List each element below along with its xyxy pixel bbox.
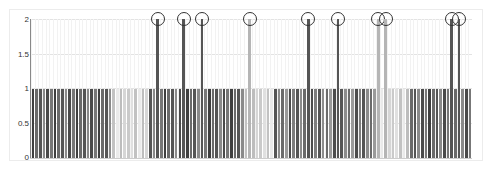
bar (212, 89, 215, 159)
bar (414, 89, 417, 159)
highlight-circle-marker (452, 12, 466, 26)
highlight-circle-marker (331, 12, 345, 26)
y-tick-label: 0 (25, 153, 29, 162)
bar (340, 89, 343, 159)
bar (439, 89, 442, 159)
highlight-circle-marker (243, 12, 257, 26)
y-tick-label: 1 (25, 84, 29, 93)
bar (57, 89, 60, 159)
bar (443, 89, 446, 159)
bar (134, 89, 137, 159)
y-tick-label: 0.5 (18, 119, 29, 128)
bar (428, 89, 431, 159)
bar (171, 89, 174, 159)
bar (359, 89, 362, 159)
bar (465, 89, 468, 159)
bar (186, 89, 189, 159)
bar (149, 89, 152, 159)
bar (318, 89, 321, 159)
bar (399, 89, 402, 159)
y-axis (30, 19, 31, 159)
bar (373, 89, 376, 159)
bar (215, 89, 218, 159)
bar (366, 89, 369, 159)
bar (245, 89, 248, 159)
bar (223, 89, 226, 159)
bar (252, 89, 255, 159)
bar (381, 89, 384, 159)
bar (454, 89, 457, 159)
bar (263, 89, 266, 159)
bar (436, 89, 439, 159)
bar (72, 89, 75, 159)
bar (256, 89, 259, 159)
bar (190, 89, 193, 159)
bar (94, 89, 97, 159)
bar (322, 89, 325, 159)
bar (278, 89, 281, 159)
bar (370, 89, 373, 159)
bar (197, 89, 200, 159)
bar (109, 89, 112, 159)
highlight-circle-marker (177, 12, 191, 26)
bar (348, 89, 351, 159)
bar (138, 89, 141, 159)
bar (193, 89, 196, 159)
bar (153, 89, 156, 159)
y-tick-label: 1.5 (18, 50, 29, 59)
bar (285, 89, 288, 159)
bar (76, 89, 79, 159)
bar (219, 89, 222, 159)
bar-highlighted (201, 19, 204, 158)
bar-highlighted (182, 19, 185, 158)
bar-highlighted (384, 19, 387, 158)
bar (289, 89, 292, 159)
bar (90, 89, 93, 159)
bar (296, 89, 299, 159)
highlight-circle-marker (195, 12, 209, 26)
highlight-circle-marker (151, 12, 165, 26)
bar (46, 89, 49, 159)
bar (230, 89, 233, 159)
bar (292, 89, 295, 159)
bar (281, 89, 284, 159)
bar-highlighted (307, 19, 310, 158)
bar-highlighted (156, 19, 159, 158)
bar (145, 89, 148, 159)
bar (204, 89, 207, 159)
bar (237, 89, 240, 159)
bar (50, 89, 53, 159)
bar (131, 89, 134, 159)
bar (410, 89, 413, 159)
bar (116, 89, 119, 159)
bar (83, 89, 86, 159)
bar (344, 89, 347, 159)
bar (469, 89, 472, 159)
bar-highlighted (458, 19, 461, 158)
x-axis (30, 158, 472, 159)
bar-highlighted (450, 19, 453, 158)
bar (61, 89, 64, 159)
bar (127, 89, 130, 159)
bar (43, 89, 46, 159)
highlight-circle-marker (301, 12, 315, 26)
bar (54, 89, 57, 159)
bar (259, 89, 262, 159)
bar (329, 89, 332, 159)
bar (112, 89, 115, 159)
bar (326, 89, 329, 159)
bar (241, 89, 244, 159)
bar (300, 89, 303, 159)
y-tick-label: 2 (25, 15, 29, 24)
bar (208, 89, 211, 159)
bar (98, 89, 101, 159)
bar (314, 89, 317, 159)
bar (226, 89, 229, 159)
bar (362, 89, 365, 159)
bar (160, 89, 163, 159)
bar (406, 89, 409, 159)
bar (432, 89, 435, 159)
bar (87, 89, 90, 159)
bar (421, 89, 424, 159)
bar (164, 89, 167, 159)
